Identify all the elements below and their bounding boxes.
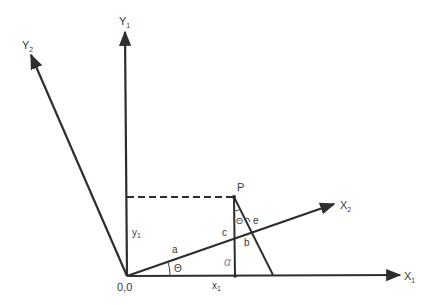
x1-axis	[127, 275, 400, 276]
y1-axis	[125, 32, 127, 276]
x1-label: X1	[404, 270, 415, 284]
segment-c-label: c	[222, 227, 227, 238]
point-p-label: P	[237, 181, 244, 193]
alpha-label: α	[224, 255, 232, 269]
theta-p-label: Θ	[236, 216, 243, 226]
point-p-marker	[232, 195, 236, 199]
x1-segment-label: x1	[212, 280, 221, 292]
rotation-diagram: Y1 Y2 X1 X2 P 0,0 a b c e y1 x1 Θ Θ α	[0, 0, 431, 305]
segment-e-label: e	[253, 215, 259, 226]
theta-origin-label: Θ	[174, 263, 182, 274]
x2-label: X2	[340, 199, 351, 213]
theta-origin-arc	[168, 262, 170, 276]
p-vertical-line	[234, 197, 235, 276]
y2-axis	[31, 55, 127, 276]
y1-segment-label: y1	[132, 227, 141, 239]
y2-label: Y2	[22, 39, 33, 53]
origin-label: 0,0	[117, 281, 132, 293]
segment-b-label: b	[244, 237, 250, 248]
segment-a-label: a	[172, 244, 178, 255]
y1-label: Y1	[119, 15, 130, 29]
x1-foot-marker	[233, 274, 237, 278]
